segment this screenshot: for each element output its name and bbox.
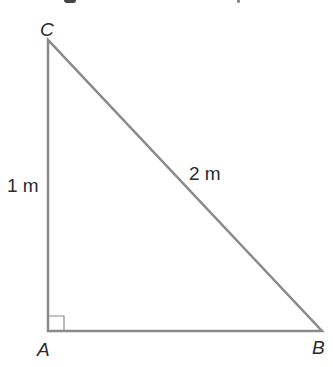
vertex-label-c: C <box>40 20 54 39</box>
side-label-bc: 2 m <box>189 164 221 183</box>
vertex-label-b: B <box>312 338 325 357</box>
right-angle-marker <box>48 316 64 331</box>
side-label-ac: 1 m <box>7 176 39 195</box>
triangle-figure <box>0 0 333 367</box>
triangle-abc <box>48 40 322 331</box>
vertex-label-a: A <box>37 340 50 359</box>
